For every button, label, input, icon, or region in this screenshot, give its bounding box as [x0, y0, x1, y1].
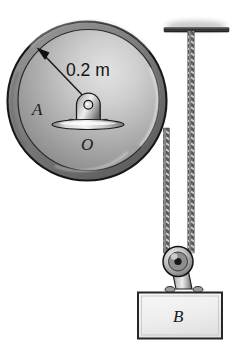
- cord-right-body: [188, 31, 194, 253]
- ceiling-support: [164, 21, 229, 33]
- radius-dimension-label: 0.2 m: [66, 60, 110, 80]
- cord-left-body: [163, 128, 169, 253]
- mechanics-figure: 0.2 m A O B: [0, 0, 241, 345]
- hub-pin-highlight: [86, 102, 89, 105]
- cord-from-ceiling: [188, 31, 194, 253]
- pulley-highlight: [171, 253, 178, 260]
- cord-from-disk: [163, 128, 169, 253]
- disk-a-label: A: [31, 100, 43, 119]
- hub-base-plate-highlight: [60, 122, 116, 126]
- block-b-label: B: [173, 307, 184, 326]
- center-o-label: O: [81, 135, 93, 154]
- ceiling-bar: [164, 28, 229, 33]
- figure-canvas: 0.2 m A O B: [0, 0, 241, 345]
- pulley: [163, 247, 203, 293]
